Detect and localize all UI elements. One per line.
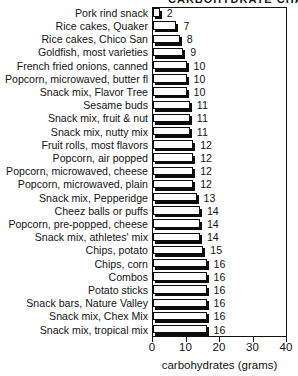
bar-graphic	[153, 258, 210, 272]
bar-category-label: Snack mix, fruit & nut	[48, 114, 148, 125]
bar-value-label: 16	[214, 285, 226, 296]
bar-graphic	[153, 33, 183, 47]
carbohydrate-bar-chart: CARBOHYDRATE CHART Pork rind snack2Rice …	[0, 0, 298, 376]
bar-row: Fruit rolls, most flavors12	[0, 139, 298, 153]
bar-value-label: 11	[197, 100, 208, 111]
bar-value-label: 14	[207, 219, 219, 230]
bar-category-label: French fried onions, canned	[17, 61, 148, 72]
bar-graphic	[153, 271, 210, 285]
bar-graphic	[153, 139, 196, 153]
bar-row: Rice cakes, Quaker7	[0, 20, 298, 34]
bar-value-label: 10	[194, 61, 206, 72]
bar	[153, 272, 207, 280]
bar-value-label: 10	[194, 74, 206, 85]
bar-value-label: 11	[197, 127, 208, 138]
bar	[153, 219, 200, 227]
bar-graphic	[153, 179, 196, 193]
bar-value-label: 16	[214, 312, 226, 323]
bar-category-label: Snack mix, tropical mix	[40, 325, 148, 336]
bar-row: Pork rind snack2	[0, 7, 298, 21]
bar	[153, 299, 207, 307]
bar	[153, 140, 193, 148]
bar-row: Goldfish, most varieties9	[0, 47, 298, 61]
bar-value-label: 12	[200, 153, 212, 164]
bar-graphic	[153, 311, 210, 325]
x-axis-tick-labels: 010203040	[0, 341, 298, 356]
bar-graphic	[153, 86, 190, 100]
bar-row: Snack mix, Chex Mix16	[0, 311, 298, 325]
bar-row: Popcorn, microwaved, plain12	[0, 179, 298, 193]
bar-value-label: 11	[197, 114, 208, 125]
bar-category-label: Snack bars, Nature Valley	[26, 298, 148, 309]
bar-row: Popcorn, microwaved, butter fl10	[0, 73, 298, 87]
bar	[153, 167, 193, 175]
bar	[153, 193, 197, 201]
bar-graphic	[153, 113, 193, 127]
bar-value-label: 12	[200, 140, 212, 151]
bar-category-label: Combos	[109, 272, 148, 283]
bar-category-label: Snack mix, Flavor Tree	[40, 87, 148, 98]
bar-row: Rice cakes, Chico San8	[0, 33, 298, 47]
bar-category-label: Popcorn, microwaved, butter fl	[5, 74, 148, 85]
bar-row: Snack mix, Flavor Tree10	[0, 86, 298, 100]
bar-graphic	[153, 297, 210, 311]
bar-category-label: Sesame buds	[83, 100, 148, 111]
bar	[153, 87, 187, 95]
bar-row: Chips, corn16	[0, 258, 298, 272]
bar-category-label: Snack mix, nutty mix	[51, 127, 148, 138]
bar-category-label: Snack mix, Chex Mix	[49, 312, 148, 323]
bar-row: Sesame buds11	[0, 99, 298, 113]
bar-row: Popcorn, air popped12	[0, 152, 298, 166]
bar-category-label: Popcorn, pre-popped, cheese	[8, 219, 148, 230]
bar-row: Snack mix, nutty mix11	[0, 126, 298, 140]
bar-value-label: 15	[210, 246, 222, 257]
bar-value-label: 16	[214, 272, 226, 283]
bar-graphic	[153, 284, 210, 298]
bar-graphic	[153, 205, 203, 219]
bar-graphic	[153, 60, 190, 74]
bar	[153, 61, 187, 69]
bar	[153, 8, 160, 16]
chart-title-cropped: CARBOHYDRATE CHART	[168, 0, 298, 5]
bar-value-label: 12	[200, 166, 212, 177]
bar-category-label: Cheez balls or puffs	[55, 206, 148, 217]
bar-category-label: Rice cakes, Quaker	[56, 21, 148, 32]
bar-graphic	[153, 192, 200, 206]
bar	[153, 21, 176, 29]
bar-value-label: 7	[183, 21, 189, 32]
bar	[153, 114, 190, 122]
bar-category-label: Chips, potato	[86, 246, 148, 257]
bar-value-label: 10	[194, 87, 206, 98]
bar-row: Popcorn, microwaved, cheese12	[0, 165, 298, 179]
bar-category-label: Pork rind snack	[75, 8, 148, 19]
bar-graphic	[153, 126, 193, 140]
bar	[153, 127, 190, 135]
x-axis-tick-label: 0	[149, 341, 155, 354]
bar-graphic	[153, 7, 163, 21]
bar	[153, 153, 193, 161]
bar	[153, 74, 187, 82]
bar-graphic	[153, 152, 196, 166]
bar-graphic	[153, 165, 196, 179]
bar-category-label: Rice cakes, Chico San	[41, 34, 148, 45]
bar-graphic	[153, 20, 179, 34]
bar-row: Chips, potato15	[0, 245, 298, 259]
bar-value-label: 16	[214, 298, 226, 309]
bar	[153, 101, 190, 109]
bar-category-label: Chips, corn	[94, 259, 148, 270]
bar	[153, 259, 207, 267]
x-axis-tick-label: 30	[246, 341, 259, 354]
bar	[153, 35, 180, 43]
bar-row: Snack mix, athletes' mix14	[0, 231, 298, 245]
bar-category-label: Potato sticks	[88, 285, 148, 296]
bar-graphic	[153, 99, 193, 113]
bar-value-label: 9	[190, 48, 196, 59]
bar-value-label: 14	[207, 232, 219, 243]
bar-row: French fried onions, canned10	[0, 60, 298, 74]
chart-title-text: CARBOHYDRATE CHART	[168, 0, 298, 5]
bar-graphic	[153, 324, 210, 338]
bar-row: Cheez balls or puffs14	[0, 205, 298, 219]
bar-value-label: 16	[214, 259, 226, 270]
x-axis-tick-label: 40	[280, 341, 293, 354]
bar-value-label: 13	[204, 193, 216, 204]
